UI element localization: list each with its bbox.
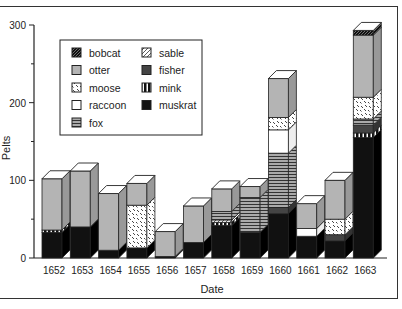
stacked-3d-bar-chart: 0100200300 16521653165416551656165716581… [0,0,402,309]
segment-muskrat [353,138,373,258]
bar-1652: 1652 [42,171,70,276]
mink-swatch-icon [142,83,151,92]
segment-raccoon [268,130,288,153]
x-tick-label: 1658 [213,265,236,276]
segment-fox [268,153,288,207]
segment-muskrat [212,225,232,258]
legend-item-mink: mink [142,82,182,94]
segment-mink [353,133,373,138]
segment-bobcat [353,30,373,35]
segment-muskrat [127,248,147,258]
raccoon-swatch-icon [72,101,81,110]
segment-otter [184,206,204,243]
x-tick-label: 1662 [326,265,349,276]
segment-moose [353,97,373,119]
legend-label: sable [159,47,184,59]
segment-otter [99,194,119,251]
segment-otter [240,187,260,198]
legend-label: mink [159,82,182,94]
bar-1657: 1657 [184,198,212,276]
x-tick-label: 1657 [184,265,207,276]
legend-label: bobcat [89,47,121,59]
x-tick-label: 1656 [156,265,179,276]
segment-muskrat [240,232,260,258]
y-axis-title: Pelts [0,135,12,160]
x-tick-label: 1652 [43,265,66,276]
legend-label: moose [89,82,121,94]
bar-1656: 1656 [155,224,183,276]
x-axis-title: Date [200,283,223,295]
sable-swatch-icon [142,48,151,57]
bobcat-swatch-icon [72,48,81,57]
segment-muskrat [184,242,204,258]
legend-label: fox [89,117,104,129]
legend-item-bobcat: bobcat [72,47,121,59]
x-tick-label: 1653 [71,265,94,276]
x-tick-label: 1663 [354,265,377,276]
legend-item-otter: otter [72,64,111,76]
y-tick-label: 0 [20,253,26,264]
bar-1653: 1653 [70,163,98,276]
bar-1663: 1663 [353,22,381,276]
x-tick-label: 1654 [99,265,122,276]
otter-swatch-icon [72,66,81,75]
legend-item-fisher: fisher [142,64,185,76]
legend-label: muskrat [159,99,196,111]
x-tick-label: 1659 [241,265,264,276]
segment-otter [42,179,62,230]
x-tick-label: 1660 [269,265,292,276]
segment-fox [240,197,260,232]
legend-item-raccoon: raccoon [72,99,127,111]
segment-fisher [325,235,345,241]
fisher-swatch-icon [142,66,151,75]
segment-muskrat [42,232,62,258]
segment-fox [353,119,373,125]
legend-item-sable: sable [142,47,184,59]
segment-fisher [268,208,288,214]
segment-raccoon [297,228,317,236]
segment-fox [212,211,232,220]
bar-1655: 1655 [127,175,155,276]
segment-moose [268,117,288,129]
segment-otter [268,79,288,118]
segment-otter [212,189,232,212]
bar-1654: 1654 [99,186,127,276]
fox-swatch-icon [72,118,81,127]
segment-otter [155,232,175,257]
bar-1662: 1662 [325,172,353,276]
segment-moose [127,205,147,248]
y-tick-label: 300 [9,20,26,31]
segment-muskrat [325,241,345,258]
bar-1661: 1661 [297,196,325,276]
segment-fisher [353,125,373,133]
y-tick-label: 200 [9,98,26,109]
muskrat-swatch-icon [142,101,151,110]
y-tick-label: 100 [9,175,26,186]
segment-otter [325,180,345,219]
segment-muskrat [268,214,288,258]
x-tick-label: 1655 [128,265,151,276]
segment-moose [325,219,345,235]
bar-1660: 1660 [268,71,296,276]
x-tick-label: 1661 [298,265,321,276]
legend-item-muskrat: muskrat [142,99,196,111]
legend-label: otter [89,64,111,76]
segment-otter [353,35,373,97]
segment-muskrat [99,250,119,258]
moose-swatch-icon [72,83,81,92]
segment-otter [127,183,147,205]
segment-otter [70,171,90,227]
legend-label: raccoon [89,99,127,111]
legend-item-moose: moose [72,82,121,94]
bar-1659: 1659 [240,179,268,276]
segment-muskrat [70,227,90,258]
bar-1658: 1658 [212,181,240,276]
segment-muskrat [297,236,317,258]
segment-otter [297,204,317,229]
legend: bobcatsableotterfishermooseminkraccoonmu… [60,40,202,135]
segment-mink [212,222,232,225]
legend-label: fisher [159,64,185,76]
